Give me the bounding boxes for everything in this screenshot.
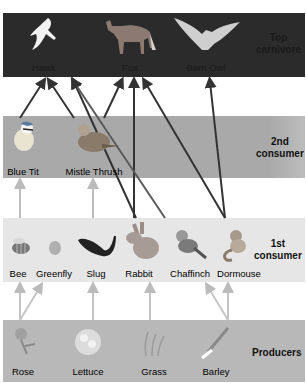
first-consumer-label: 1st consumer [254, 238, 302, 262]
grass-icon [140, 328, 168, 358]
top-carnivore-label: Top carnivore [256, 32, 301, 56]
hawk-icon [28, 16, 60, 54]
blue-tit-icon [9, 120, 37, 156]
mistle-thrush-icon [72, 122, 122, 156]
producers-label: Producers [252, 347, 301, 359]
slug-icon [76, 232, 118, 258]
bee-icon [7, 238, 33, 260]
dormouse-icon [220, 228, 250, 262]
greenfly-icon [46, 238, 64, 258]
barley-icon [198, 326, 234, 360]
second-consumer-label: 2nd consumer [256, 136, 304, 160]
barn-owl-icon [172, 16, 242, 52]
chaffinch-icon [172, 228, 208, 260]
rabbit-icon [120, 222, 160, 260]
lettuce-icon [70, 326, 106, 358]
rose-icon [11, 326, 39, 356]
fox-icon [102, 18, 158, 56]
